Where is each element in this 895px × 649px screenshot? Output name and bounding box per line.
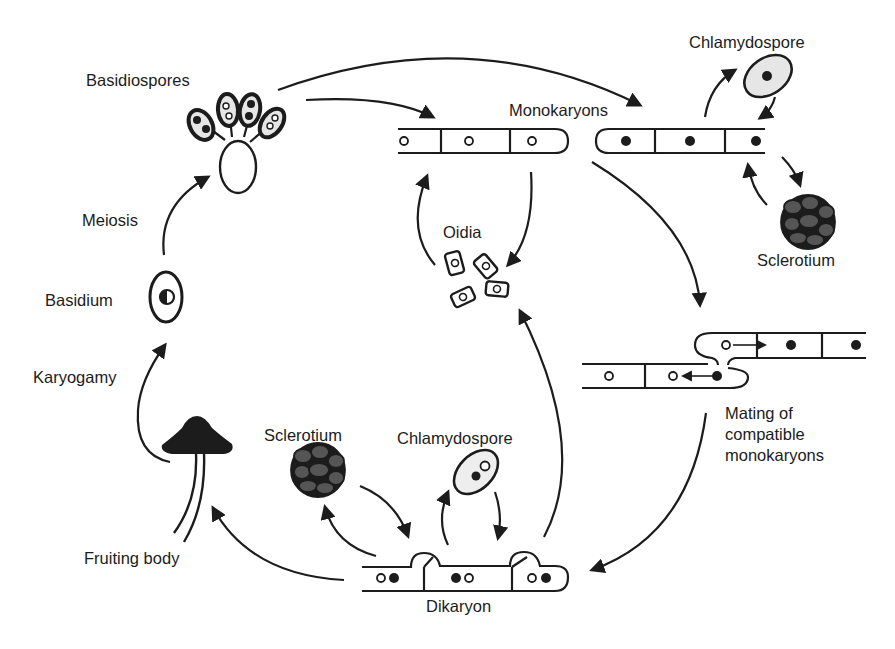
mating-hyphae xyxy=(582,333,866,388)
arrow-monoB-to-chlamydospore xyxy=(705,70,735,117)
arrow-dikaryon-to-chlamydospore xyxy=(442,492,448,545)
basidium-icon xyxy=(150,272,182,322)
label-karyogamy: Karyogamy xyxy=(33,367,116,387)
arrow-dikaryon-to-fruiting-body xyxy=(213,508,344,580)
sclerotium-mono-icon xyxy=(781,195,835,249)
arrow-dikaryon-to-oidia xyxy=(520,311,562,537)
label-basidiospores: Basidiospores xyxy=(86,70,190,90)
arrow-sclerotium-to-dikaryon xyxy=(360,486,408,536)
label-chlamydospore-bottom: Chlamydospore xyxy=(397,428,513,448)
basidiospores-icon xyxy=(183,93,289,193)
arrow-monoB-to-sclerotium xyxy=(782,157,800,185)
label-monokaryons: Monokaryons xyxy=(509,100,608,120)
chlamydospore-dikaryon-icon xyxy=(446,442,507,503)
arrow-monokaryons-to-mating xyxy=(592,162,700,305)
label-basidium: Basidium xyxy=(45,290,113,310)
label-sclerotium-bottom: Sclerotium xyxy=(264,425,342,445)
arrow-dikaryon-to-sclerotium xyxy=(325,507,376,556)
arrow-sclerotium-to-monoB xyxy=(748,165,767,205)
arrow-chlamydospore-to-dikaryon xyxy=(495,492,500,538)
monokaryon-a-hypha xyxy=(398,129,568,153)
dikaryon-hypha xyxy=(362,552,568,591)
label-dikaryon: Dikaryon xyxy=(426,596,491,616)
sclerotium-dikaryon-icon xyxy=(291,443,345,497)
label-mating: Mating of compatible monokaryons xyxy=(725,403,855,466)
arrow-chlamydospore-to-monoB xyxy=(760,97,775,118)
label-sclerotium-top: Sclerotium xyxy=(757,250,835,270)
arrow-monoA-to-oidia xyxy=(508,172,532,265)
arrow-mating-to-dikaryon xyxy=(592,413,706,570)
label-chlamydospore-top: Chlamydospore xyxy=(689,32,805,52)
fungal-life-cycle-diagram: Basidiospores Monokaryons Chlamydospore … xyxy=(0,0,895,649)
label-fruiting-body: Fruiting body xyxy=(84,548,179,568)
oidia-icon xyxy=(444,251,508,308)
label-oidia: Oidia xyxy=(443,222,482,242)
arrow-oidia-to-monoA xyxy=(418,176,435,265)
arrow-meiosis xyxy=(163,177,208,255)
chlamydospore-mono-icon xyxy=(736,46,799,105)
label-meiosis: Meiosis xyxy=(82,210,138,230)
arrow-basidiospores-to-monokaryon-a xyxy=(306,99,433,117)
monokaryon-b-hypha xyxy=(596,129,765,153)
